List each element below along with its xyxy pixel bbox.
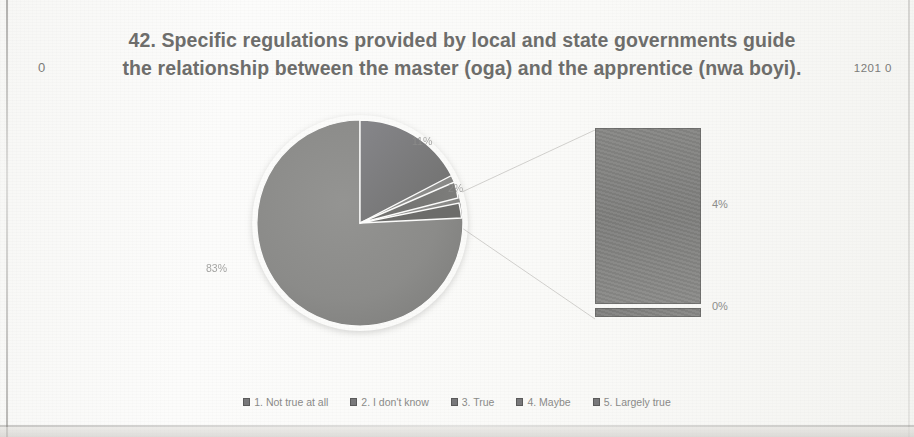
legend-item-1: 1. Not true at all xyxy=(243,396,328,408)
breakout-bar-label-largely-true: 0% xyxy=(712,300,728,312)
legend-item-2: 2. I don't know xyxy=(350,396,428,408)
pie-label-not-true-at-all: 83% xyxy=(206,262,227,274)
pie-label-true: 2% xyxy=(448,182,463,194)
breakout-bar-label-maybe: 4% xyxy=(712,198,728,210)
scanned-chart-page: 0 1201 0 42. Specific regulations provid… xyxy=(0,0,914,437)
legend-label: 2. I don't know xyxy=(361,396,428,408)
legend-label: 5. Largely true xyxy=(604,396,671,408)
legend-swatch-icon xyxy=(516,398,523,406)
legend-swatch-icon xyxy=(350,398,357,406)
legend-label: 3. True xyxy=(462,396,495,408)
pie-label-i-dont-know: 11% xyxy=(412,135,432,147)
breakout-bar-segment-maybe xyxy=(595,128,701,304)
breakout-bar xyxy=(595,128,701,317)
breakout-bar-segment-largely-true xyxy=(595,308,701,317)
pie-slices xyxy=(255,118,465,328)
chart-plot-area: 83% 11% 2% 4% 0% xyxy=(0,0,914,437)
legend-item-5: 5. Largely true xyxy=(593,396,671,408)
legend-label: 4. Maybe xyxy=(527,396,570,408)
chart-legend: 1. Not true at all 2. I don't know 3. Tr… xyxy=(0,396,914,408)
legend-item-4: 4. Maybe xyxy=(516,396,570,408)
legend-swatch-icon xyxy=(593,398,600,406)
legend-swatch-icon xyxy=(451,398,458,406)
legend-item-3: 3. True xyxy=(451,396,495,408)
legend-swatch-icon xyxy=(243,398,250,406)
legend-label: 1. Not true at all xyxy=(254,396,328,408)
pie-chart xyxy=(255,118,465,328)
